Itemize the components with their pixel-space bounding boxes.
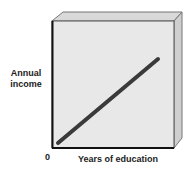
y-axis-label-line2: income bbox=[2, 79, 50, 90]
y-axis-label-line1: Annual bbox=[2, 68, 50, 79]
y-axis-label: Annual income bbox=[2, 68, 50, 90]
box-top-face bbox=[52, 12, 182, 21]
origin-label: 0 bbox=[45, 152, 50, 162]
x-axis-label: Years of education bbox=[78, 154, 158, 164]
plot-area bbox=[52, 21, 174, 148]
box-side-face bbox=[174, 12, 182, 148]
